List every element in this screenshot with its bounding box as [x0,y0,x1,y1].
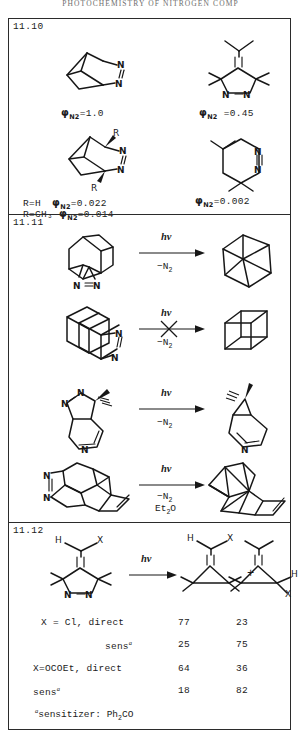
substituent-label-r: R [91,183,97,193]
atom-label-n: N [117,60,125,70]
footnote-text: sensitizer: Ph [38,709,118,720]
structure-isopropylidene-pyrazoline: N N [195,37,285,103]
table-row-value-4b: 82 [225,685,259,696]
minus-n-text: −N [157,337,168,348]
condition-hv-4: hν [161,463,172,474]
atom-label-n: N [93,281,101,291]
row-label: sens [105,641,129,652]
structure-r-diazabicycloheptene: N N R R [57,129,147,195]
atom-label-n: N [241,445,249,455]
atom-label-x: X [285,589,291,599]
table-row-label-4: sensa [33,685,60,698]
phi-value: =0.45 [218,108,254,119]
phi-subscript: N2 [203,201,214,209]
condition-solvent-et2o: Et2O [155,503,176,516]
atom-label-n: N [254,165,262,175]
product-prismane [215,233,285,289]
phi-value: =0.002 [214,196,250,207]
minus-n-sub: 2 [168,423,172,430]
solvent-text-end: O [170,503,176,514]
product-cage-polycyclic [205,459,299,521]
atom-label-n: N [85,590,93,600]
reactant-polycyclic-azo: N N [37,459,141,521]
condition-minus-n2-1: −N2 [157,261,172,274]
table-row-value-3a: 64 [167,663,201,674]
table-row-value-3b: 36 [225,663,259,674]
footnote-text-end: CO [122,709,133,720]
condition-hv-1112: hν [141,553,152,564]
atom-label-x: X [97,535,103,545]
structure-diazabicycloheptene: N N [57,41,143,103]
atom-label-n: N [81,445,89,455]
minus-n-text: −N [157,261,168,272]
atom-label-n: N [115,79,123,89]
phi-symbol: φ [195,195,203,206]
atom-label-h: H [187,533,194,543]
atom-label-n: N [111,353,119,363]
minus-n-text: −N [157,417,168,428]
reactant-azo-tricyclic: N N [61,231,135,293]
panel-number-11-10: 11.10 [13,21,44,32]
panel-number-11-11: 11.11 [13,217,44,228]
row-label-superscript: a [129,639,133,646]
page-root: PHOTOCHEMISTRY OF NITROGEN COMP 11.10 N … [0,0,301,737]
condition-minus-n2-4: −N2 [157,491,172,504]
phi-symbol: φ [52,197,60,208]
structure-tetrahydropyridazine: N N [199,131,287,193]
atom-label-n: N [243,90,251,100]
panel-11-12: 11.12 H X N N [9,522,290,729]
atom-label-n: N [61,399,69,409]
phi-symbol: φ [61,107,69,118]
phi-symbol: φ [199,107,207,118]
product-cyclopropane-pyridine: N [215,381,295,453]
atom-label-n: N [43,471,51,481]
atom-label-n: N [64,590,72,600]
atom-label-h: H [55,535,62,545]
condition-hv-1: hν [161,231,172,242]
quantum-yield-1: φN2=1.0 [61,107,104,121]
arrow-reaction-2-blocked [139,321,205,337]
atom-label-n: N [73,281,81,291]
condition-minus-n2-2: −N2 [157,337,172,350]
row-label: sens [33,687,57,698]
quantum-yield-2: φN2 =0.45 [199,107,254,121]
table-row-label-3: X=OCOEt, direct [33,663,122,674]
quantum-yield-5: φN2=0.002 [195,195,250,209]
minus-n-sub: 2 [168,343,172,350]
table-row-label-2: sensa [105,639,132,652]
minus-n-sub: 2 [168,267,172,274]
atom-label-n: N [115,329,123,339]
atom-label-n: N [119,146,127,156]
minus-n-text: −N [157,491,168,502]
phi-subscript: N2 [69,113,80,121]
arrow-reaction-3 [139,401,205,417]
row-label: X=OCOEt, direct [33,663,122,674]
running-head: PHOTOCHEMISTRY OF NITROGEN COMP [0,0,301,8]
table-row-value-2a: 25 [167,639,201,650]
condition-hv-2: hν [161,307,172,318]
panel-11-11: 11.11 N N [9,214,290,522]
reactant-azo-cubane: N N [61,305,137,371]
product-cyclopropane-2: H X [215,535,299,597]
footnote-sensitizer: asensitizer: Ph2CO [35,707,133,722]
figure-frame: 11.10 N N φN2=1.0 [8,18,291,730]
reactant-pyrazolo-pyridine: N N N [51,381,137,453]
phi-value: =1.0 [80,108,104,119]
atom-label-n: N [43,493,51,503]
substituent-label-r: R [113,128,119,138]
row-label-superscript: a [57,685,61,692]
atom-label-h: H [291,569,298,579]
row-label: X = Cl, direct [41,617,124,628]
phi-subscript: N2 [207,113,218,121]
table-row-value-1b: 23 [225,617,259,628]
panel-11-10: 11.10 N N φN2=1.0 [9,19,290,214]
atom-label-n: N [77,388,85,398]
atom-label-n: N [117,165,125,175]
table-row-value-1a: 77 [167,617,201,628]
condition-hv-3: hν [161,387,172,398]
solvent-text: Et [155,503,166,514]
condition-minus-n2-3: −N2 [157,417,172,430]
product-cubane [219,309,281,361]
atom-label-n: N [222,90,230,100]
atom-label-n: N [254,147,262,157]
